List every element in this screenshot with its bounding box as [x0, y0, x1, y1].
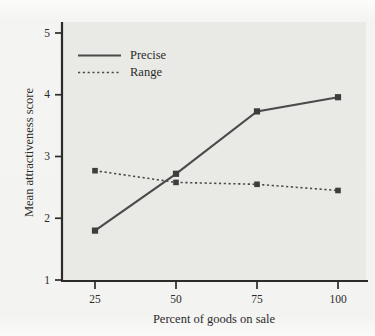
data-point-range-75 [254, 182, 260, 188]
data-point-precise-75 [254, 108, 260, 114]
series-line-range [95, 171, 338, 191]
legend-label-range: Range [130, 66, 162, 79]
y-axis-title: Mean attractiveness score [22, 58, 37, 248]
data-point-range-50 [173, 180, 179, 186]
x-tick-label-100: 100 [321, 294, 355, 306]
data-point-precise-50 [173, 171, 179, 177]
y-tick-label-5: 5 [30, 28, 50, 40]
data-point-precise-100 [335, 94, 341, 100]
chart-figure: 5 4 3 2 1 25 50 75 100 Percent of goods … [0, 0, 375, 336]
x-axis-title: Percent of goods on sale [62, 312, 366, 327]
x-tick-label-75: 75 [240, 294, 274, 306]
x-tick-label-50: 50 [159, 294, 193, 306]
series-line-precise [95, 97, 338, 230]
data-point-range-100 [335, 188, 341, 194]
chart-canvas [0, 0, 375, 336]
y-tick-label-1: 1 [30, 275, 50, 287]
x-tick-label-25: 25 [78, 294, 112, 306]
data-point-range-25 [92, 168, 98, 174]
legend-label-precise: Precise [130, 49, 166, 62]
data-point-precise-25 [92, 228, 98, 234]
